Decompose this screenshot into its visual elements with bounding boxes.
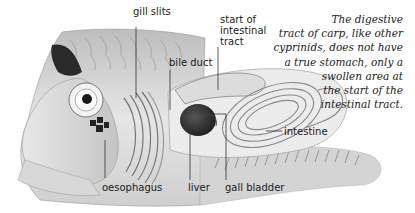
label-gall-bladder: gall bladder [225,182,284,193]
carp-digestive-diagram: gill slits start of intestinal tract bil… [0,0,415,213]
label-gill-slits: gill slits [133,6,171,17]
label-intestine: intestine [284,126,328,137]
label-bile-duct: bile duct [169,57,212,68]
caption: The digestive tract of carp, like other … [253,12,403,111]
liver [180,104,216,136]
label-oesophagus: oesophagus [102,182,162,193]
label-liver: liver [188,182,210,193]
